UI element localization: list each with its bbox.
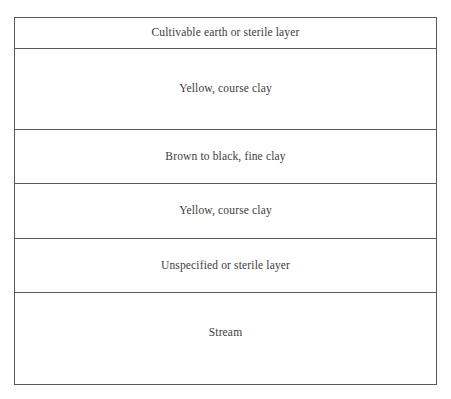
layer-band-5: Unspecified or sterile layer [15,239,436,294]
layer-band-3: Brown to black, fine clay [15,130,436,184]
stratigraphic-profile-diagram: Cultivable earth or sterile layer Yellow… [14,17,437,385]
layer-label-4: Yellow, course clay [179,204,272,218]
layer-band-1: Cultivable earth or sterile layer [15,18,436,49]
layer-label-2: Yellow, course clay [179,82,272,96]
layer-label-3: Brown to black, fine clay [165,150,285,164]
layer-band-6: Stream [15,293,436,384]
layer-band-2: Yellow, course clay [15,49,436,131]
layer-label-1: Cultivable earth or sterile layer [151,26,299,40]
layer-label-6: Stream [209,326,242,340]
layer-label-5: Unspecified or sterile layer [161,259,290,273]
layer-band-4: Yellow, course clay [15,184,436,239]
